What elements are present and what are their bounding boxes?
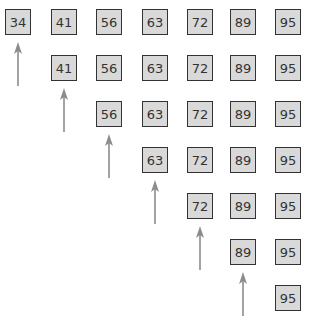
pointer-arrow-icon [13, 42, 23, 86]
list-element-box: 95 [275, 101, 301, 127]
list-element-box: 95 [275, 239, 301, 265]
list-element-box: 89 [230, 193, 256, 219]
list-element-box: 95 [275, 193, 301, 219]
list-element-box: 95 [275, 9, 301, 35]
pointer-arrow-icon [104, 134, 114, 178]
list-element-box: 95 [275, 285, 301, 311]
list-element-box: 89 [230, 239, 256, 265]
pointer-arrow-icon [59, 88, 69, 132]
list-element-box: 63 [142, 9, 168, 35]
list-element-box: 89 [230, 147, 256, 173]
pointer-arrow-icon [238, 272, 248, 316]
list-element-box: 89 [230, 55, 256, 81]
list-element-box: 41 [51, 55, 77, 81]
list-element-box: 72 [187, 55, 213, 81]
list-element-box: 72 [187, 101, 213, 127]
list-element-box: 63 [142, 55, 168, 81]
list-element-box: 72 [187, 193, 213, 219]
list-element-box: 63 [142, 101, 168, 127]
list-element-box: 95 [275, 147, 301, 173]
list-element-box: 56 [96, 101, 122, 127]
list-element-box: 89 [230, 101, 256, 127]
list-element-box: 72 [187, 147, 213, 173]
list-element-box: 95 [275, 55, 301, 81]
list-element-box: 34 [5, 9, 31, 35]
list-element-box: 41 [51, 9, 77, 35]
list-element-box: 63 [142, 147, 168, 173]
list-element-box: 56 [96, 55, 122, 81]
list-element-box: 56 [96, 9, 122, 35]
list-element-box: 89 [230, 9, 256, 35]
pointer-arrow-icon [150, 180, 160, 224]
pointer-arrow-icon [195, 226, 205, 270]
list-element-box: 72 [187, 9, 213, 35]
